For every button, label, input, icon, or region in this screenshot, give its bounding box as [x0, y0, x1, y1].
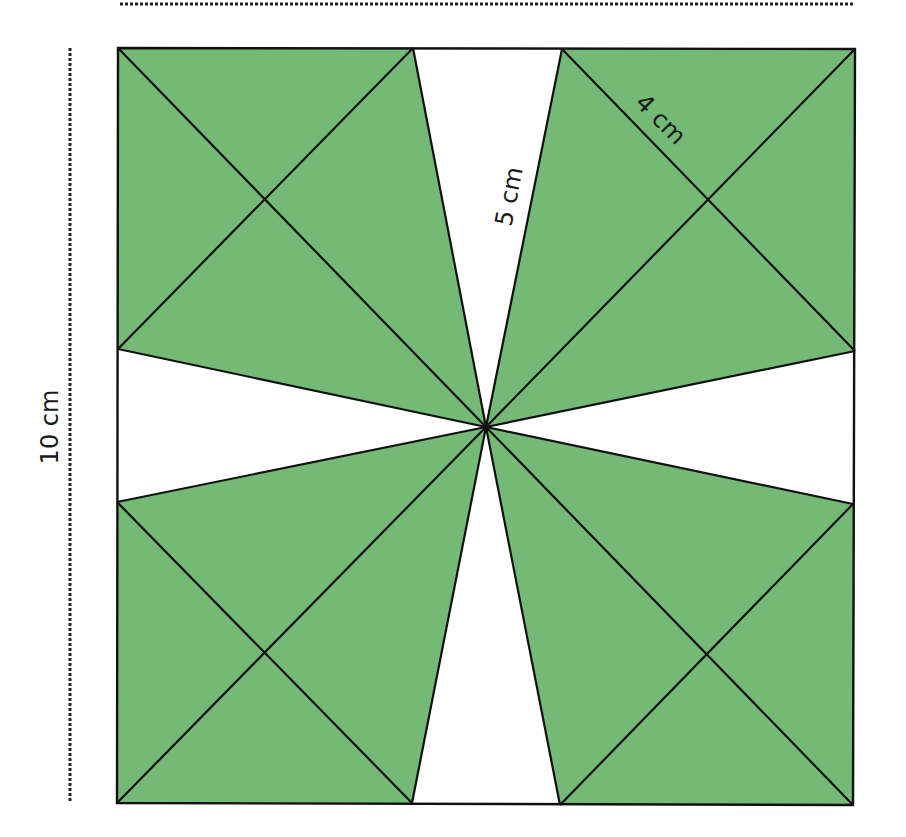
- side-length-label: 10 cm: [36, 390, 64, 465]
- kite-edge-label: 5 cm: [490, 165, 529, 229]
- geometry-figure: 10 cm 5 cm 4 cm: [0, 0, 906, 837]
